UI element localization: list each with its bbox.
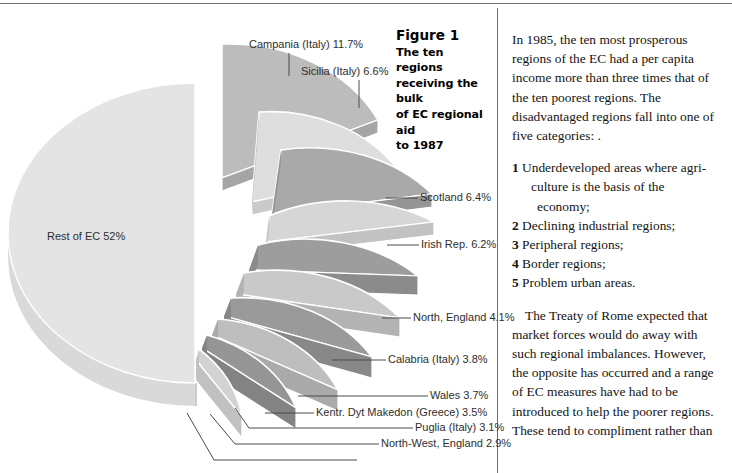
figure-caption-line-4: to 1987 (396, 139, 443, 152)
body-paragraph-1: In 1985, the ten most prosperous regions… (512, 30, 724, 145)
pie-label-sicilia: Sicilia (Italy) 6.6% (301, 65, 388, 77)
list-item-5: 5 Problem urban areas. (512, 273, 724, 292)
list-number-5: 5 (512, 275, 519, 290)
top-rule (0, 3, 732, 4)
list-number-4: 4 (512, 256, 519, 271)
body-paragraph-2: The Treaty of Rome expected that market … (512, 306, 724, 440)
list-item-4: 4 Border regions; (512, 254, 724, 273)
pie-label-puglia: Puglia (Italy) 3.1% (415, 421, 504, 433)
pie-label-north-west-england: North-West, England 2.9% (381, 437, 511, 449)
list-text-5: Problem urban areas. (522, 275, 635, 290)
figure-caption: Figure 1 The ten regions receiving the b… (396, 28, 492, 154)
list-item-3: 3 Peripheral regions; (512, 235, 724, 254)
pie-label-calabria: Calabria (Italy) 3.8% (388, 353, 488, 365)
figure-page: Campania (Italy) 11.7% Sicilia (Italy) 6… (0, 0, 732, 473)
pie-label-north-england: North, England 4.1% (413, 311, 515, 323)
list-text-3: Peripheral regions; (522, 237, 624, 252)
figure-caption-line-3: of EC regional aid (396, 108, 483, 137)
list-cont-1b: economy; (525, 197, 724, 216)
pie-label-campania: Campania (Italy) 11.7% (249, 38, 363, 50)
slice-edge-rest-of-ec (195, 383, 197, 406)
pie-label-rest-of-ec: Rest of EC 52% (47, 230, 125, 242)
pie-label-scotland: Scotland 6.4% (420, 191, 491, 203)
pie-label-wales: Wales 3.7% (430, 389, 488, 401)
list-number-3: 3 (512, 237, 519, 252)
article-text-column: In 1985, the ten most prosperous regions… (512, 30, 724, 440)
list-text-2: Declining industrial regions; (522, 218, 675, 233)
figure-caption-line-1: The ten regions (396, 46, 443, 75)
list-text-4: Border regions; (522, 256, 606, 271)
pie-label-kentr-dyt-makedon: Kentr. Dyt Makedon (Greece) 3.5% (316, 406, 487, 418)
column-divider-rule (497, 8, 498, 473)
list-item-2: 2 Declining industrial regions; (512, 216, 724, 235)
figure-number: Figure 1 (396, 28, 492, 44)
category-list: 1 Underdeveloped areas where agri- cultu… (512, 158, 724, 292)
list-number-2: 2 (512, 218, 519, 233)
list-number-1: 1 (512, 160, 519, 175)
list-text-1: Underdeveloped areas where agri- (522, 160, 706, 175)
figure-caption-line-2: receiving the bulk (396, 77, 478, 106)
list-cont-1a: culture is the basis of the (525, 177, 724, 196)
list-item-1: 1 Underdeveloped areas where agri- cultu… (512, 158, 724, 216)
pie-label-irish-rep: Irish Rep. 6.2% (421, 238, 496, 250)
